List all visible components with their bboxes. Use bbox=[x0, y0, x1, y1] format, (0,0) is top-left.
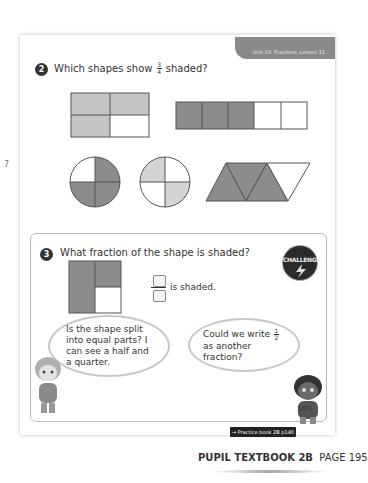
shape-circle-half bbox=[138, 155, 192, 209]
book-page-label: PUPIL TEXTBOOK 2B PAGE 195 bbox=[198, 452, 368, 463]
margin-text-fragment: 7 bbox=[4, 160, 9, 169]
is-shaded-label: is shaded. bbox=[170, 282, 216, 292]
book-label: PUPIL TEXTBOOK 2B bbox=[198, 452, 313, 463]
lesson-label: Unit 10: Fractions, Lesson 11 bbox=[253, 49, 325, 55]
boy-character bbox=[288, 373, 328, 425]
denominator-input[interactable] bbox=[153, 290, 166, 302]
lesson-header-tab: Unit 10: Fractions, Lesson 11 bbox=[235, 37, 335, 59]
page-shadow bbox=[210, 470, 330, 473]
lightning-icon bbox=[294, 264, 308, 278]
question-2-text: Which shapes show 34 shaded? bbox=[54, 62, 208, 75]
textbook-page: Unit 10: Fractions, Lesson 11 2 Which sh… bbox=[20, 35, 335, 435]
fraction-three-quarters: 34 bbox=[157, 62, 162, 75]
speech-bubble-left: Is the shape split into equal parts? I c… bbox=[48, 315, 170, 377]
fraction-one-half: 12 bbox=[274, 328, 279, 341]
question-3-number: 3 bbox=[40, 248, 53, 261]
fraction-bar bbox=[151, 287, 166, 288]
question-2-number: 2 bbox=[35, 63, 48, 76]
numerator-input[interactable] bbox=[153, 275, 166, 287]
shape-triangles bbox=[205, 161, 313, 203]
shape-strip-fifths bbox=[175, 101, 309, 131]
question-2-text-before: Which shapes show bbox=[54, 63, 152, 74]
girl-character bbox=[30, 355, 66, 417]
shape-circle-three-quarters bbox=[68, 155, 122, 209]
challenge-badge: CHALLENGE bbox=[282, 245, 318, 281]
shape-rectangle-quarters bbox=[70, 92, 150, 138]
speech-bubble-right: Could we write 12 as another fraction? bbox=[188, 318, 300, 372]
page-label: PAGE 195 bbox=[319, 452, 367, 463]
challenge-badge-label: CHALLENGE bbox=[283, 256, 317, 263]
question-3-text: What fraction of the shape is shaded? bbox=[60, 247, 250, 258]
practice-book-link[interactable]: → Practice book 2B p140 bbox=[230, 427, 296, 437]
page-number: 195 bbox=[297, 405, 312, 413]
question-2-text-after: shaded? bbox=[166, 63, 208, 74]
shape-half-and-quarter bbox=[68, 260, 122, 314]
